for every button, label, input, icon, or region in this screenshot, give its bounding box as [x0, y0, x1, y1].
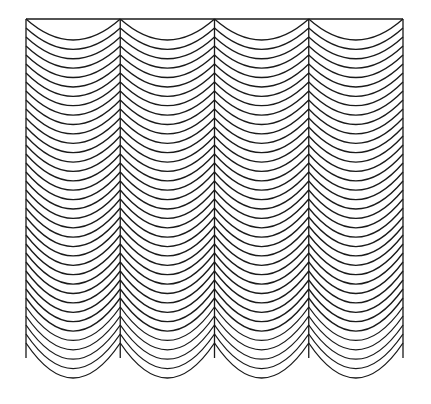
scallop-arc — [215, 73, 309, 96]
scallop-arc — [120, 64, 214, 87]
scallop-arc — [120, 244, 214, 275]
scallop-arc — [26, 253, 120, 284]
scallop-arc — [309, 325, 403, 359]
scallop-arc — [120, 226, 214, 256]
scallop-arc — [120, 73, 214, 96]
scallop-arc — [26, 73, 120, 96]
scallop-arc — [26, 244, 120, 275]
scallop-arc — [309, 343, 403, 378]
scallop-arc — [26, 235, 120, 265]
scallop-arc — [215, 325, 309, 359]
scallop-arc — [309, 262, 403, 294]
scallop-arc — [215, 28, 309, 49]
scallop-arc — [309, 235, 403, 265]
scallop-arc — [309, 334, 403, 369]
scallop-arc — [120, 28, 214, 49]
scallop-arc — [120, 325, 214, 359]
scallop-arc — [26, 280, 120, 312]
scallop-arc — [309, 226, 403, 256]
arc-pattern-group — [26, 19, 403, 378]
scallop-arc — [26, 325, 120, 359]
scallop-arc — [215, 343, 309, 378]
scallop-arc — [215, 64, 309, 87]
scallop-arc — [309, 64, 403, 87]
scallop-arc — [215, 19, 309, 40]
scallop-arc — [120, 253, 214, 284]
scallop-arc — [215, 334, 309, 369]
scallop-arc — [26, 226, 120, 256]
scallop-arc — [309, 271, 403, 303]
scallop-arc — [26, 28, 120, 49]
scallop-arc — [26, 19, 120, 40]
scallop-arc — [215, 253, 309, 284]
scallop-arc — [26, 334, 120, 369]
scallop-arc — [215, 235, 309, 265]
scallop-arc — [309, 244, 403, 275]
scallop-arc — [120, 19, 214, 40]
scallop-arc — [309, 280, 403, 312]
scallop-arc — [26, 271, 120, 303]
scallop-arc — [120, 235, 214, 265]
scallop-arc — [120, 334, 214, 369]
scallop-arc — [120, 262, 214, 294]
scallop-arc — [26, 64, 120, 87]
scallop-arc — [309, 28, 403, 49]
scallop-arc — [215, 226, 309, 256]
scallop-arc — [215, 262, 309, 294]
scallop-arc — [215, 271, 309, 303]
scallop-arc — [215, 280, 309, 312]
scallop-arc — [120, 343, 214, 378]
scallop-arc — [309, 253, 403, 284]
scallop-arc — [26, 343, 120, 378]
scallop-pattern-diagram — [0, 0, 431, 404]
scallop-arc — [309, 73, 403, 96]
scallop-arc — [120, 271, 214, 303]
scallop-arc — [120, 280, 214, 312]
scallop-arc — [309, 19, 403, 40]
scallop-arc — [26, 262, 120, 294]
scallop-arc — [215, 244, 309, 275]
